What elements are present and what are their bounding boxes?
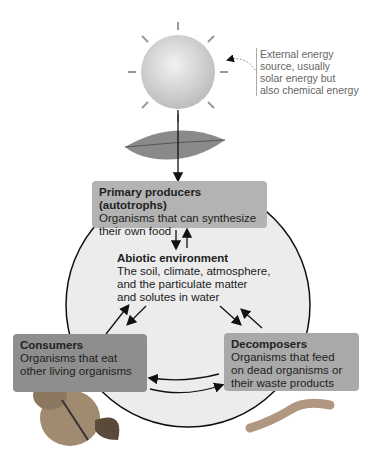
- decomposers-line: Organisms that feed: [231, 351, 352, 364]
- note-line: source, usually: [260, 60, 359, 72]
- sun-icon: [128, 22, 228, 122]
- decomposers-title: Decomposers: [231, 338, 352, 351]
- note-line: also chemical energy: [260, 84, 359, 96]
- consumers-box: Consumers Organisms that eat other livin…: [13, 334, 147, 392]
- abiotic-line: and solutes in water: [117, 291, 270, 304]
- note-line: External energy: [260, 48, 359, 60]
- decomposers-line: their waste products: [231, 377, 352, 390]
- note-line: solar energy but: [260, 72, 359, 84]
- abiotic-environment-label: Abiotic environment The soil, climate, a…: [117, 252, 270, 304]
- external-energy-note: External energy source, usually solar en…: [256, 48, 359, 96]
- consumers-title: Consumers: [20, 339, 140, 352]
- consumers-line: Organisms that eat: [20, 352, 140, 365]
- consumers-line: other living organisms: [20, 365, 140, 378]
- primary-producers-title: Primary producers (autotrophs): [99, 186, 260, 212]
- decomposers-line: on dead organisms or: [231, 364, 352, 377]
- decomposers-box: Decomposers Organisms that feed on dead …: [224, 333, 359, 391]
- abiotic-line: and the particulate matter: [117, 278, 270, 291]
- primary-producers-line: their own food: [99, 225, 260, 238]
- primary-producers-box: Primary producers (autotrophs) Organisms…: [92, 181, 267, 228]
- abiotic-title: Abiotic environment: [117, 252, 270, 265]
- leaf-icon: [125, 131, 225, 160]
- worm-icon: [250, 403, 330, 428]
- primary-producers-line: Organisms that can synthesize: [99, 212, 260, 225]
- abiotic-line: The soil, climate, atmosphere,: [117, 265, 270, 278]
